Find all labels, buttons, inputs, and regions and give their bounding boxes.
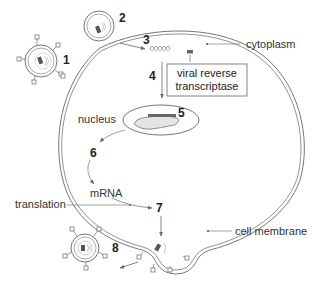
cytoplasm-label: cytoplasm xyxy=(246,38,296,50)
retrovirus-diagram: 1 2 3 4 viral reverse transcriptase cyto… xyxy=(0,0,319,282)
arrow-virus-release xyxy=(120,262,138,268)
nucleus-label: nucleus xyxy=(78,113,116,125)
step-7-number: 7 xyxy=(156,201,163,215)
virus-particle-2 xyxy=(84,11,114,41)
enzyme-label-line1: viral reverse xyxy=(177,67,237,79)
mrna-label: mRNA xyxy=(90,187,123,199)
step-1-number: 1 xyxy=(63,53,70,67)
step-5-number: 5 xyxy=(178,106,185,120)
step-6-number: 6 xyxy=(90,146,97,160)
arrow-mrna-to-7 xyxy=(112,198,152,208)
reverse-transcriptase-icon xyxy=(187,50,193,54)
step-4-number: 4 xyxy=(149,69,156,83)
translation-label: translation xyxy=(15,198,66,210)
arrow-6-to-mrna xyxy=(88,160,94,184)
step-8-number: 8 xyxy=(112,241,119,255)
enzyme-label-line2: transcriptase xyxy=(176,80,239,92)
viral-rna-coil-icon xyxy=(150,46,170,49)
virus-particle-1 xyxy=(17,35,65,84)
cell-membrane-label: cell membrane xyxy=(235,225,307,237)
arrow-step-2-to-3 xyxy=(120,43,145,49)
integrated-dna-icon xyxy=(148,114,176,117)
arrow-nucleus-to-6 xyxy=(100,130,125,142)
step-2-number: 2 xyxy=(119,11,126,25)
virus-particle-8 xyxy=(63,227,107,270)
step-3-number: 3 xyxy=(143,33,150,47)
